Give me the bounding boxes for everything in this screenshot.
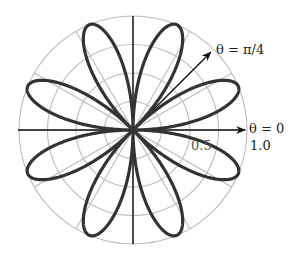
tick-label-0.5: 0.5 [191,138,212,153]
tick-label-1.0: 1.0 [250,138,271,153]
label-theta-0: θ = 0 [249,121,284,136]
label-theta-pi-over-4: θ = π/4 [216,42,264,57]
